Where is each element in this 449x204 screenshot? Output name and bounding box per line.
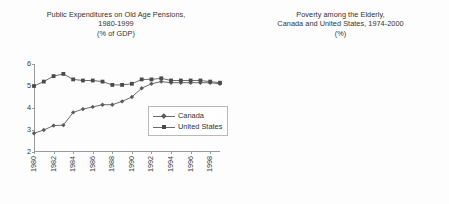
data-point-marker [199, 79, 203, 83]
data-point-marker [120, 83, 124, 87]
data-point-marker [52, 74, 56, 78]
data-point-marker [150, 78, 154, 82]
chart-title-poverty: Poverty among the Elderly, Canada and Un… [232, 10, 449, 38]
data-point-marker [100, 103, 104, 107]
legend-item-canada: Canada [153, 110, 222, 121]
chart-page: Public Expenditures on Old Age Pensions,… [0, 0, 449, 204]
data-point-marker [130, 82, 134, 86]
legend-item-united-states: United States [153, 121, 222, 132]
data-point-marker [32, 131, 36, 135]
data-point-marker [71, 78, 75, 82]
data-point-marker [120, 99, 124, 103]
data-point-marker [149, 82, 153, 86]
data-point-marker [179, 79, 183, 83]
legend-label-canada: Canada [178, 111, 204, 120]
chart-panel-poverty: Poverty among the Elderly, Canada and Un… [232, 0, 449, 204]
data-point-marker [61, 72, 65, 76]
data-point-marker [101, 80, 105, 84]
data-point-marker [91, 79, 95, 83]
legend-pensions: Canada United States [148, 106, 228, 136]
data-point-marker [140, 78, 144, 82]
square-marker-icon [153, 122, 175, 131]
legend-label-united-states: United States [178, 122, 222, 131]
y-tick-label: 2 [27, 148, 31, 155]
y-tick-label: 5 [27, 82, 31, 89]
data-point-marker [42, 128, 46, 132]
data-point-marker [159, 76, 163, 80]
y-tick-label: 6 [27, 60, 31, 67]
data-point-marker [42, 80, 46, 84]
data-point-marker [208, 80, 212, 84]
y-tick-label: 3 [27, 126, 31, 133]
data-point-marker [169, 79, 173, 83]
diamond-marker-icon [153, 111, 175, 120]
chart-panel-pensions: Public Expenditures on Old Age Pensions,… [0, 0, 232, 204]
data-point-marker [218, 81, 222, 85]
y-tick-label: 4 [27, 104, 31, 111]
data-point-marker [110, 83, 114, 87]
data-point-marker [32, 84, 36, 88]
data-point-marker [51, 123, 55, 127]
data-point-marker [189, 79, 193, 83]
chart-title-pensions: Public Expenditures on Old Age Pensions,… [0, 10, 232, 38]
data-point-marker [81, 107, 85, 111]
data-point-marker [110, 103, 114, 107]
data-point-marker [91, 105, 95, 109]
data-point-marker [81, 79, 85, 83]
